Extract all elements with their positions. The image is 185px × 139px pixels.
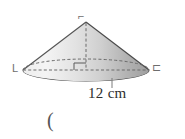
- right-vertex-mark: ⊏: [152, 62, 161, 73]
- apex-vertex-mark: ⌐: [78, 11, 84, 22]
- trailing-parenthesis: (: [47, 110, 54, 130]
- diameter-dimension-label: 12 cm: [88, 86, 127, 101]
- cone-figure: ⌐ L ⊏ 12 cm (: [0, 0, 185, 139]
- left-vertex-mark: L: [12, 63, 18, 74]
